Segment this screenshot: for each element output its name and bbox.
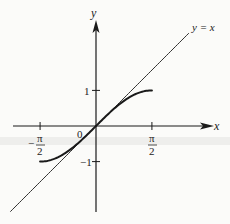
line-label: y = x <box>191 21 215 33</box>
x-axis-label: x <box>213 119 220 133</box>
x-tick-label-pi-over-2: π 2 <box>148 132 157 157</box>
denominator: 2 <box>149 145 155 157</box>
pi-numerator: π <box>37 132 43 144</box>
y-axis-label: y <box>90 6 97 20</box>
origin-label: 0 <box>77 128 83 140</box>
axes <box>13 20 214 212</box>
y-tick-label-neg1: −1 <box>80 156 92 168</box>
graph-figure: y x y = x 0 1 −1 − π 2 π 2 <box>0 0 230 224</box>
identity-line <box>11 33 189 211</box>
denominator: 2 <box>37 145 43 157</box>
labels: y x y = x 0 1 −1 − π 2 π 2 <box>28 6 220 168</box>
x-tick-label-neg-pi-over-2: − π 2 <box>28 132 45 157</box>
curves <box>11 33 189 211</box>
y-tick-label-1: 1 <box>84 85 90 97</box>
minus-sign: − <box>28 137 34 149</box>
pi-numerator: π <box>149 132 155 144</box>
